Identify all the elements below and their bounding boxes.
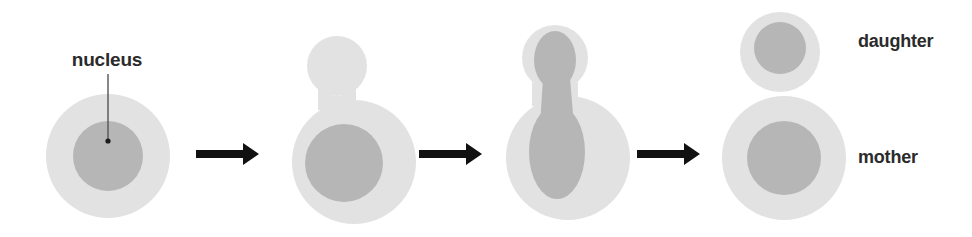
- stage-4-separation: [722, 12, 846, 220]
- mother-label: mother: [858, 147, 918, 167]
- nucleus-leader-dot: [105, 138, 110, 143]
- arrow-2-shape: [419, 143, 482, 165]
- stage-4-daughter-nucleus: [754, 22, 806, 74]
- daughter-label: daughter: [858, 31, 934, 51]
- arrow-1-shape: [196, 143, 259, 165]
- nucleus-label: nucleus: [72, 49, 142, 70]
- arrow-stage-2-to-3: [419, 143, 482, 165]
- yeast-budding-diagram: nucleus: [0, 0, 972, 237]
- stage-3-nuclear-division: [506, 25, 630, 220]
- stage-2-bud-cytoplasm: [307, 36, 367, 96]
- stage-3-nucleus-neck: [540, 78, 574, 126]
- stage-4-mother-nucleus: [747, 121, 821, 195]
- diagram-canvas: nucleus: [0, 0, 972, 237]
- stage-2-nucleus: [305, 124, 383, 202]
- arrow-stage-3-to-4: [637, 143, 700, 165]
- stage-2-bud-emergence: [292, 36, 416, 224]
- arrow-stage-1-to-2: [196, 143, 259, 165]
- arrow-3-shape: [637, 143, 700, 165]
